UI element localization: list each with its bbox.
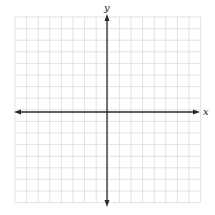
axes [14,14,200,207]
coordinate-plane [0,0,215,215]
x-axis-right-arrow-icon [193,110,200,115]
y-axis-up-arrow-icon [105,14,110,21]
x-axis-label: x [203,107,209,117]
y-axis-down-arrow-icon [105,200,110,207]
y-axis-label: y [104,3,110,13]
grid-lines [15,17,201,203]
